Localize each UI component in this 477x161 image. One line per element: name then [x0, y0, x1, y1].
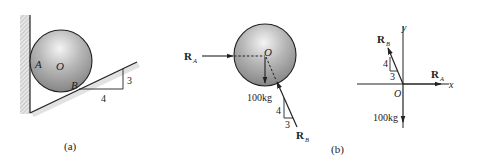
slope-rise: 3 [127, 75, 132, 86]
caption-a: (a) [64, 140, 77, 153]
label-b: B [71, 79, 78, 91]
panel-a: A O B 3 4 (a) [20, 15, 140, 153]
svg-text:B: B [386, 40, 390, 47]
statics-figure: A O B 3 4 (a) R A O 100kg 4 3 R B (b) [0, 0, 477, 161]
slope-rise: 4 [383, 58, 388, 69]
label-ra: R A [431, 68, 444, 82]
wall-hatch [20, 15, 30, 114]
label-rb: R B [377, 33, 390, 47]
panel-b-free-body-diagram: y x O R B 4 3 R A 100kg [357, 22, 454, 128]
svg-text:A: A [192, 57, 197, 64]
svg-text:R: R [431, 68, 440, 80]
label-ra: R A [184, 50, 197, 64]
label-o: O [56, 60, 64, 72]
svg-text:R: R [184, 50, 193, 62]
slope-triangle [390, 57, 397, 71]
caption-b: (b) [331, 143, 344, 156]
svg-text:B: B [305, 136, 309, 143]
label-weight: 100kg [373, 112, 398, 123]
label-weight: 100kg [247, 92, 272, 103]
label-o: O [264, 46, 272, 58]
slope-run: 3 [285, 119, 290, 130]
slope-rise: 4 [276, 105, 281, 116]
y-axis-label: y [401, 22, 407, 33]
slope-run: 3 [390, 71, 395, 82]
label-rb: R B [296, 129, 309, 143]
slope-run: 4 [101, 93, 106, 104]
svg-text:R: R [296, 129, 305, 141]
svg-text:A: A [439, 75, 444, 82]
label-a: A [34, 58, 42, 70]
origin-label: O [394, 88, 401, 99]
panel-b-sphere: R A O 100kg 4 3 R B (b) [184, 24, 344, 156]
x-axis-label: x [448, 79, 454, 90]
svg-text:R: R [377, 33, 386, 45]
